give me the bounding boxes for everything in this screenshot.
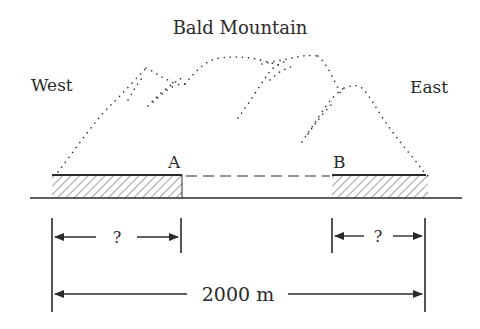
tunnel-a-label: A	[167, 152, 181, 172]
tunnel-a	[52, 175, 182, 198]
mountain-outline	[58, 56, 428, 176]
total-distance-label: 2000 m	[202, 283, 274, 305]
west-label: West	[31, 75, 73, 95]
right-segment-label: ?	[374, 227, 383, 246]
tunnel-b-label: B	[333, 152, 346, 172]
left-segment-label: ?	[113, 228, 122, 247]
bald-mountain-tunnel-diagram: Bald Mountain West East A B	[0, 0, 480, 329]
east-label: East	[410, 77, 448, 97]
tunnel-b	[332, 175, 428, 198]
mountain-title: Bald Mountain	[173, 17, 308, 38]
